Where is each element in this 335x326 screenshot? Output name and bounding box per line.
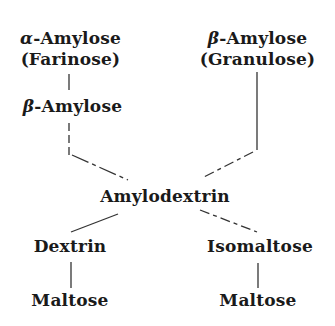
node-name: Dextrin (34, 236, 107, 256)
node-beta-amylose: β-Amylose (10, 96, 135, 117)
node-amylodextrin: Amylodextrin (85, 186, 245, 207)
node-dextrin: Dextrin (20, 236, 120, 257)
node-maltose-right: Maltose (208, 290, 308, 311)
node-name: -Amylose (33, 28, 121, 48)
node-name: Maltose (219, 290, 296, 310)
node-subtitle: (Farinose) (21, 49, 121, 69)
node-name: Amylodextrin (100, 186, 230, 206)
beta-symbol: β (23, 96, 35, 116)
beta-symbol: β (208, 28, 220, 48)
node-isomaltose: Isomaltose (200, 236, 320, 257)
node-beta-amylose-granulose: β-Amylose (Granulose) (190, 28, 325, 70)
alpha-symbol: α (20, 28, 33, 48)
node-name: -Amylose (219, 28, 307, 48)
edge-amylodextrin-to-isomaltose (200, 210, 257, 232)
edge-beta-top-to-amylodextrin (202, 152, 253, 178)
node-subtitle: (Granulose) (200, 49, 316, 69)
node-maltose-left: Maltose (20, 290, 120, 311)
node-alpha-amylose: α-Amylose (Farinose) (8, 28, 133, 70)
node-name: Isomaltose (207, 236, 313, 256)
edge-amylodextrin-to-dextrin (71, 214, 118, 232)
edge-beta-mid-to-amylodextrin (72, 155, 128, 180)
node-name: -Amylose (34, 96, 122, 116)
node-name: Maltose (31, 290, 108, 310)
